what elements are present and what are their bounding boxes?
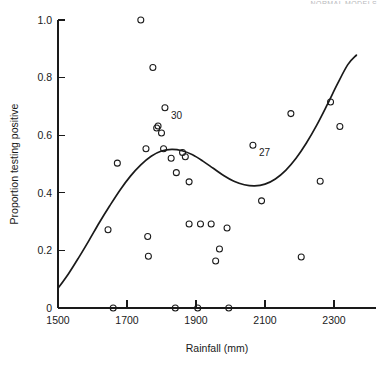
data-point [145,234,151,240]
data-point [186,179,192,185]
x-tick-label: 1500 [46,314,70,326]
data-point [173,170,179,176]
data-point [197,221,203,227]
data-point [288,111,294,117]
fitted-curve [58,55,356,288]
y-tick-label: 0.6 [37,129,52,141]
x-tick-label: 1700 [115,314,139,326]
data-point [150,65,156,71]
axes-group [58,20,376,308]
data-point [155,123,161,129]
data-point [259,198,265,204]
y-tick-label: 0.4 [37,187,52,199]
data-point [224,225,230,231]
y-axis-title: Proportion testing positive [8,103,20,224]
y-tick-label: 0.2 [37,244,52,256]
x-tick-label: 2300 [322,314,346,326]
x-tick-label: 1900 [184,314,208,326]
data-point [145,253,151,259]
data-point [138,17,144,23]
y-tick-label: 1.0 [37,14,52,26]
figure-container: NORMAL MODELS 00.20.40.60.81.0 150017001… [0,0,381,367]
data-point [143,146,149,152]
data-point [216,246,222,252]
data-point [250,142,256,148]
data-point [114,160,120,166]
y-axis-ticks: 00.20.40.60.81.0 [37,14,65,314]
data-point [208,221,214,227]
data-point [182,154,188,160]
data-point [186,221,192,227]
y-tick-label: 0.8 [37,71,52,83]
point-annotation-label: 30 [171,110,183,121]
data-point [105,227,111,233]
y-tick-label: 0 [46,302,52,314]
x-axis-title: Rainfall (mm) [186,342,248,354]
data-point [317,178,323,184]
data-point [162,105,168,111]
data-point [159,130,165,136]
data-point [298,254,304,260]
point-annotation-label: 27 [259,147,271,158]
data-point [337,124,343,130]
data-point [168,155,174,161]
x-tick-label: 2100 [253,314,277,326]
x-axis-ticks: 15001700190021002300 [46,300,346,326]
scatter-plot: 00.20.40.60.81.0 15001700190021002300 Pr… [0,0,381,367]
data-point [213,258,219,264]
